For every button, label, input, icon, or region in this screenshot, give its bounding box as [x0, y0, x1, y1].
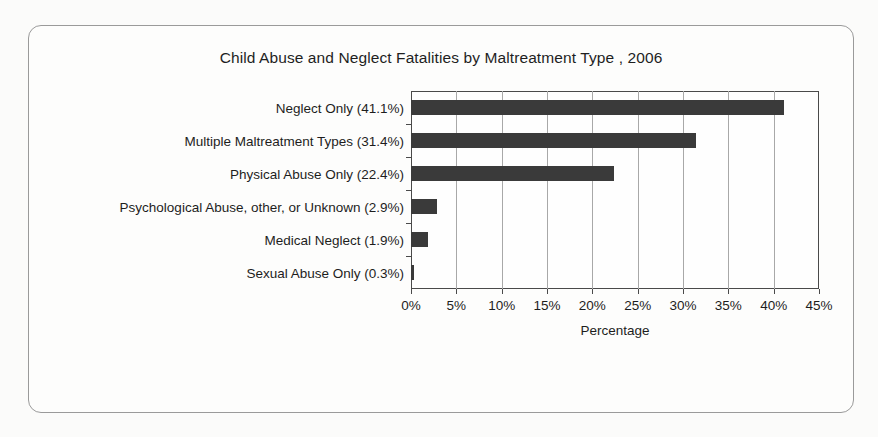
- x-tick-label: 45%: [805, 298, 832, 313]
- x-tick-label: 10%: [488, 298, 515, 313]
- x-tick-mark: [819, 289, 820, 294]
- bar: [411, 166, 614, 181]
- bar-row: Sexual Abuse Only (0.3%): [411, 256, 819, 289]
- bar-row: Psychological Abuse, other, or Unknown (…: [411, 190, 819, 223]
- chart-title: Child Abuse and Neglect Fatalities by Ma…: [29, 49, 853, 67]
- bar-row: Multiple Maltreatment Types (31.4%): [411, 124, 819, 157]
- x-tick-mark: [592, 289, 593, 294]
- x-tick-label: 0%: [401, 298, 421, 313]
- x-tick-label: 20%: [579, 298, 606, 313]
- y-axis-label: Neglect Only (41.1%): [276, 100, 404, 115]
- y-axis-label: Multiple Maltreatment Types (31.4%): [184, 133, 404, 148]
- bar: [411, 133, 696, 148]
- x-tick-mark: [411, 289, 412, 294]
- x-tick-mark: [456, 289, 457, 294]
- bar-row: Physical Abuse Only (22.4%): [411, 157, 819, 190]
- bar: [411, 199, 437, 214]
- x-tick-label: 40%: [760, 298, 787, 313]
- x-tick-label: 30%: [669, 298, 696, 313]
- plot-wrapper: 0%5%10%15%20%25%30%35%40%45% Neglect Onl…: [411, 91, 819, 289]
- figure-frame: Child Abuse and Neglect Fatalities by Ma…: [28, 25, 854, 413]
- x-tick-label: 15%: [533, 298, 560, 313]
- x-tick-mark: [638, 289, 639, 294]
- x-tick-label: 35%: [715, 298, 742, 313]
- y-axis-label: Medical Neglect (1.9%): [264, 232, 404, 247]
- x-tick-label: 5%: [447, 298, 467, 313]
- x-axis-title: Percentage: [411, 323, 819, 338]
- bar-row: Neglect Only (41.1%): [411, 91, 819, 124]
- x-tick-mark: [502, 289, 503, 294]
- bar: [411, 100, 784, 115]
- x-tick-mark: [547, 289, 548, 294]
- y-axis-label: Physical Abuse Only (22.4%): [230, 166, 404, 181]
- bar-row: Medical Neglect (1.9%): [411, 223, 819, 256]
- y-axis-label: Psychological Abuse, other, or Unknown (…: [120, 199, 404, 214]
- x-tick-label: 25%: [624, 298, 651, 313]
- bar: [411, 232, 428, 247]
- x-tick-mark: [774, 289, 775, 294]
- x-tick-mark: [728, 289, 729, 294]
- x-tick-mark: [683, 289, 684, 294]
- bar: [411, 265, 414, 280]
- y-axis-label: Sexual Abuse Only (0.3%): [246, 265, 404, 280]
